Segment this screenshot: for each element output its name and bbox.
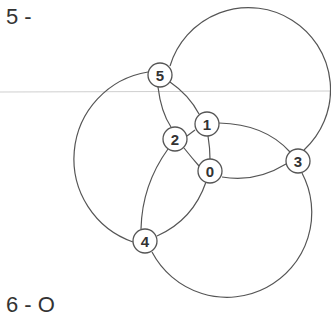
edge-5-2 [158, 87, 171, 127]
node-5-label: 5 [156, 67, 164, 84]
edge-5-1 [170, 82, 199, 114]
node-2-label: 2 [171, 131, 179, 148]
edge-0-3 [222, 164, 286, 178]
node-0-label: 0 [206, 163, 214, 180]
edge-2-0 [184, 148, 199, 166]
node-3-label: 3 [294, 153, 302, 170]
node-4-label: 4 [141, 233, 150, 250]
node-0: 0 [198, 159, 222, 183]
horizontal-rule [0, 91, 331, 92]
edge-5-3 [170, 8, 331, 150]
edge-2-4 [141, 149, 168, 229]
edge-5-4 [74, 72, 148, 242]
node-3: 3 [286, 149, 310, 173]
edge-2-1 [187, 130, 195, 136]
edge-1-0 [208, 136, 210, 159]
node-4: 4 [133, 229, 157, 253]
edge-4-3 [152, 173, 312, 297]
edge-1-3 [219, 123, 290, 152]
node-2: 2 [163, 127, 187, 151]
node-5: 5 [148, 63, 172, 87]
edge-0-4 [157, 182, 206, 236]
node-1-label: 1 [203, 116, 211, 133]
node-1: 1 [195, 112, 219, 136]
